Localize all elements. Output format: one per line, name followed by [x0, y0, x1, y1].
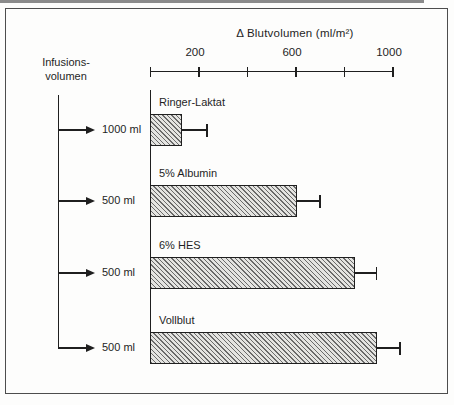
arrow-line [58, 272, 86, 274]
bar-label: Ringer-Laktat [159, 96, 225, 108]
arrow-line [58, 347, 86, 349]
bar [150, 185, 297, 217]
infusion-volume-label: 500 ml [102, 194, 135, 206]
figure-canvas: Δ Blutvolumen (ml/m²) Infusions- volumen… [0, 0, 454, 405]
error-bar-cap [206, 124, 208, 137]
x-axis-line [150, 71, 393, 72]
error-bar-line [377, 347, 400, 348]
x-axis-tick-label: 1000 [369, 46, 409, 58]
error-bar-cap [399, 342, 401, 355]
bar [150, 257, 355, 289]
arrow-line [58, 129, 86, 131]
infusion-bracket-line [58, 95, 60, 349]
x-axis-tick [295, 67, 296, 77]
page-top-rule [0, 0, 424, 3]
arrow-head-icon [86, 269, 95, 277]
x-axis-tick [247, 67, 248, 77]
bar-label: 5% Albumin [159, 167, 217, 179]
bar-label: Vollblut [159, 314, 194, 326]
left-axis-title-line1: Infusions- [28, 55, 104, 69]
arrow-head-icon [86, 344, 95, 352]
arrow-line [58, 200, 86, 202]
error-bar-line [355, 272, 377, 273]
arrow-head-icon [86, 197, 95, 205]
arrow-head-icon [86, 126, 95, 134]
x-axis-tick [198, 67, 199, 77]
error-bar-line [182, 129, 207, 130]
x-axis-tick-label: 200 [175, 46, 215, 58]
left-axis-title-line2: volumen [28, 69, 104, 83]
x-axis-tick [344, 67, 345, 77]
infusion-volume-label: 500 ml [102, 266, 135, 278]
x-axis-tick [150, 67, 151, 77]
x-axis-title: Δ Blutvolumen (ml/m²) [160, 27, 430, 39]
bar-label: 6% HES [159, 239, 201, 251]
x-axis-tick-label: 600 [272, 46, 312, 58]
left-axis-title: Infusions- volumen [28, 55, 104, 83]
error-bar-cap [376, 267, 378, 280]
infusion-volume-label: 1000 ml [102, 123, 141, 135]
bar [150, 332, 377, 364]
error-bar-line [297, 200, 320, 201]
x-axis-tick [392, 67, 393, 77]
bar [150, 114, 182, 146]
error-bar-cap [319, 195, 321, 208]
infusion-volume-label: 500 ml [102, 341, 135, 353]
